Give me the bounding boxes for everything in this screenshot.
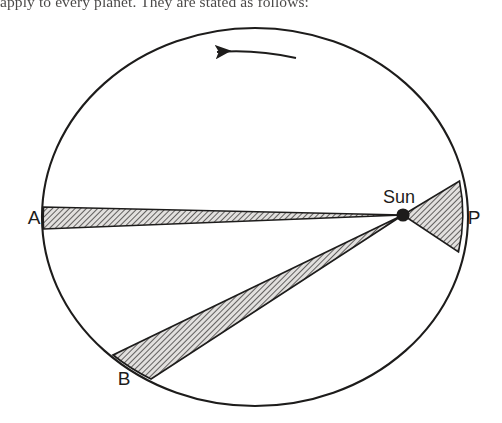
point-label-b: B [118, 368, 131, 389]
sun-marker [396, 208, 409, 221]
sun-label: Sun [383, 187, 415, 207]
point-label-p: P [468, 207, 481, 228]
point-label-a: A [28, 207, 41, 228]
keplers-second-law-diagram: Sun A P B [0, 0, 502, 423]
